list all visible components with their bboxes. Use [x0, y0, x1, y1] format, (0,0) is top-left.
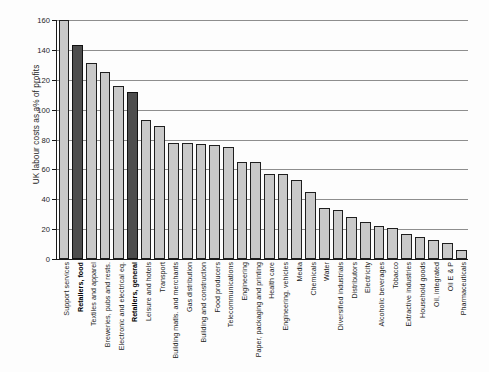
- bar-slot: [276, 20, 290, 259]
- bar: [401, 234, 412, 259]
- bar: [278, 174, 289, 259]
- bar-slot: [441, 20, 455, 259]
- bar: [59, 20, 70, 259]
- x-label-slot: Pharmaceuticals: [454, 262, 468, 370]
- y-axis-title: UK labour costs as a% of profits: [32, 25, 41, 225]
- bar-slot: [249, 20, 263, 259]
- bar-slot: [71, 20, 85, 259]
- y-axis-tick: [52, 259, 57, 260]
- bar-series: [57, 20, 468, 259]
- x-axis-tick-labels: Support servicesRetailers, foodTextiles …: [57, 262, 468, 370]
- bar-slot: [427, 20, 441, 259]
- x-label-slot: Electricity: [358, 262, 372, 370]
- bar-slot: [180, 20, 194, 259]
- bar-highlighted: [72, 45, 83, 259]
- x-label-slot: Retailers, food: [71, 262, 85, 370]
- x-label-slot: Transport: [153, 262, 167, 370]
- y-axis-tick-label: 0: [46, 255, 50, 264]
- bar-slot: [194, 20, 208, 259]
- x-label-slot: Media: [290, 262, 304, 370]
- bar: [237, 162, 248, 259]
- bar-slot: [331, 20, 345, 259]
- x-label-slot: Building matls. and merchants: [167, 262, 181, 370]
- x-label-slot: Extractive industries: [400, 262, 414, 370]
- bar-slot: [126, 20, 140, 259]
- bar: [291, 180, 302, 259]
- y-axis-tick-label: 120: [37, 75, 50, 84]
- plot-area: 020406080100120140160: [57, 20, 468, 259]
- bar-highlighted: [127, 92, 138, 259]
- bar: [333, 210, 344, 259]
- bar-slot: [304, 20, 318, 259]
- x-label-slot: Tobacco: [386, 262, 400, 370]
- bar-slot: [317, 20, 331, 259]
- x-label-slot: Diversified industrials: [331, 262, 345, 370]
- bar: [182, 143, 193, 260]
- y-axis-tick-label: 160: [37, 16, 50, 25]
- bar-slot: [386, 20, 400, 259]
- bar: [250, 162, 261, 259]
- bar-slot: [167, 20, 181, 259]
- bar: [86, 63, 97, 259]
- x-label-slot: Building and construction: [194, 262, 208, 370]
- bar-slot: [454, 20, 468, 259]
- bar: [209, 145, 220, 259]
- bar-slot: [400, 20, 414, 259]
- x-label-slot: Engineering, vehicles: [276, 262, 290, 370]
- bar: [346, 217, 357, 259]
- x-label-slot: Oil, integrated: [427, 262, 441, 370]
- x-label-slot: Textiles and apparel: [84, 262, 98, 370]
- x-label-slot: Food producers: [208, 262, 222, 370]
- x-label-slot: Chemicals: [304, 262, 318, 370]
- y-axis-tick-label: 100: [37, 105, 50, 114]
- bar: [360, 222, 371, 259]
- bar: [415, 237, 426, 259]
- bar-slot: [413, 20, 427, 259]
- x-label-slot: Gas distribution: [180, 262, 194, 370]
- bar-slot: [263, 20, 277, 259]
- bar: [196, 144, 207, 259]
- x-label-slot: Retailers, general: [126, 262, 140, 370]
- bar: [168, 143, 179, 260]
- x-label-slot: Oil E & P: [441, 262, 455, 370]
- x-label-slot: Telecommunications: [221, 262, 235, 370]
- bar: [319, 208, 330, 259]
- bar: [442, 243, 453, 259]
- bar-slot: [153, 20, 167, 259]
- gridline: [57, 259, 468, 260]
- x-label-slot: Engineering: [235, 262, 249, 370]
- y-axis-tick-label: 80: [42, 135, 50, 144]
- bar-slot: [57, 20, 71, 259]
- bar: [456, 250, 467, 259]
- bar-slot: [358, 20, 372, 259]
- bar: [223, 147, 234, 259]
- bar: [100, 72, 111, 259]
- y-axis-tick-label: 40: [42, 195, 50, 204]
- x-axis-tick-label: Pharmaceuticals: [461, 262, 469, 315]
- bar: [113, 86, 124, 259]
- bar: [374, 226, 385, 259]
- bar: [387, 228, 398, 259]
- bar: [428, 240, 439, 259]
- x-label-slot: Electronic and electrical eq.: [112, 262, 126, 370]
- bar: [154, 126, 165, 259]
- bar: [141, 120, 152, 259]
- bar-slot: [139, 20, 153, 259]
- x-label-slot: Paper, packaging and printing: [249, 262, 263, 370]
- bar-slot: [290, 20, 304, 259]
- bar: [264, 174, 275, 259]
- bar-slot: [98, 20, 112, 259]
- x-label-slot: Alcoholic beverages: [372, 262, 386, 370]
- bar-slot: [208, 20, 222, 259]
- y-axis-tick-label: 140: [37, 45, 50, 54]
- bar-slot: [372, 20, 386, 259]
- bar-slot: [112, 20, 126, 259]
- y-axis-tick-label: 60: [42, 165, 50, 174]
- bar-slot: [345, 20, 359, 259]
- bar-slot: [235, 20, 249, 259]
- bar: [305, 192, 316, 259]
- x-label-slot: Household goods: [413, 262, 427, 370]
- x-label-slot: Breweries, pubs and rests.: [98, 262, 112, 370]
- x-label-slot: Leisure and hotels: [139, 262, 153, 370]
- bar-slot: [221, 20, 235, 259]
